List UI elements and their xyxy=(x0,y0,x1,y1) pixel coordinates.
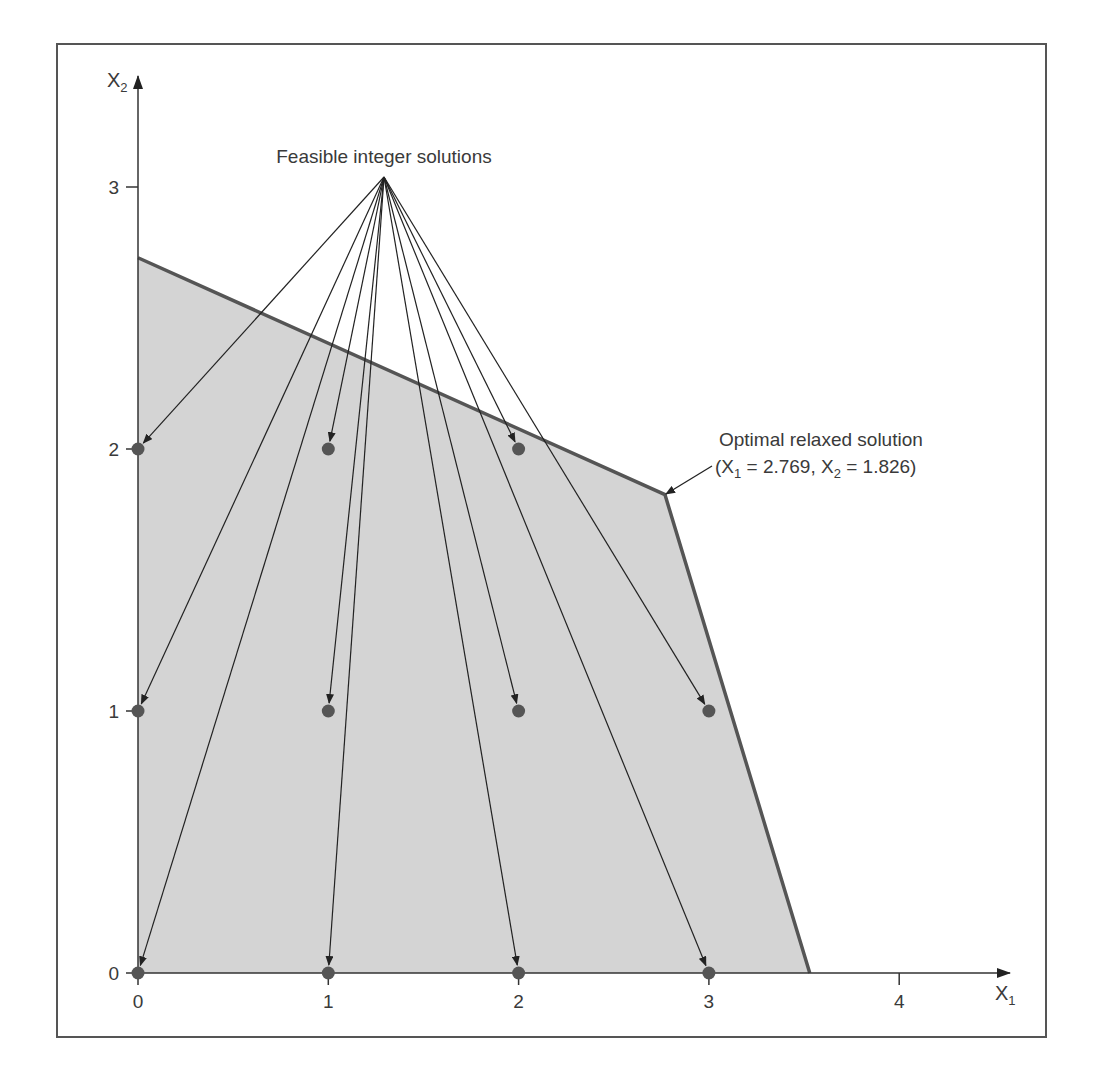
integer-solution-point xyxy=(132,967,145,980)
integer-solution-point xyxy=(132,705,145,718)
y-tick-label: 2 xyxy=(108,439,119,460)
x-tick-label: 1 xyxy=(323,991,334,1012)
integer-solution-point xyxy=(322,967,335,980)
integer-solution-point xyxy=(702,705,715,718)
integer-programming-chart: 012340123 X2 X1 Feasible integer solutio… xyxy=(0,0,1096,1083)
feasible-region xyxy=(138,258,810,973)
integer-solution-point xyxy=(512,705,525,718)
optimal-solution-arrow xyxy=(666,466,712,494)
x-tick-label: 2 xyxy=(513,991,524,1012)
y-axis-title: X2 xyxy=(107,69,128,95)
integer-solution-point xyxy=(512,443,525,456)
integer-solution-point xyxy=(322,443,335,456)
x-tick-label: 3 xyxy=(704,991,715,1012)
integer-solution-point xyxy=(512,967,525,980)
x-tick-label: 0 xyxy=(133,991,144,1012)
x-axis-title: X1 xyxy=(995,982,1016,1008)
integer-solution-point xyxy=(132,443,145,456)
optimal-solution-values: (X1 = 2.769, X2 = 1.826) xyxy=(715,456,916,481)
integer-solution-point xyxy=(322,705,335,718)
feasible-integer-label: Feasible integer solutions xyxy=(276,146,491,167)
y-tick-label: 3 xyxy=(108,177,119,198)
integer-solution-point xyxy=(702,967,715,980)
x-tick-label: 4 xyxy=(894,991,905,1012)
y-tick-label: 0 xyxy=(108,963,119,984)
y-tick-label: 1 xyxy=(108,701,119,722)
optimal-solution-label: Optimal relaxed solution xyxy=(719,429,923,450)
